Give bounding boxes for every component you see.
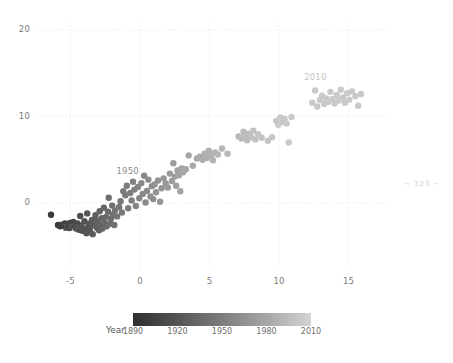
annotation-1950: 1950 xyxy=(116,166,138,176)
data-point xyxy=(286,139,292,145)
data-point xyxy=(157,199,163,205)
data-point xyxy=(133,203,139,209)
data-point xyxy=(142,199,148,205)
data-point xyxy=(283,120,289,126)
data-point xyxy=(128,197,134,203)
data-point xyxy=(77,213,83,219)
data-point xyxy=(124,183,130,189)
data-point xyxy=(130,179,136,185)
x-axis-tick-label: 0 xyxy=(124,276,156,286)
data-point xyxy=(190,163,196,169)
data-point xyxy=(358,91,364,97)
data-point xyxy=(338,86,344,92)
x-axis-tick-label: 10 xyxy=(263,276,295,286)
annotation-2010: 2010 xyxy=(304,72,326,82)
data-point xyxy=(84,210,90,216)
colorbar-tick-label: 1980 xyxy=(251,327,283,336)
colorbar-tick-label: 1890 xyxy=(117,327,149,336)
colorbar-tick-label: 1950 xyxy=(206,327,238,336)
data-point xyxy=(327,89,333,95)
data-point xyxy=(117,198,123,204)
data-point xyxy=(150,196,156,202)
data-point xyxy=(90,231,96,237)
page-number-mark: ~ 323 ~ xyxy=(404,180,441,188)
colorbar-tick-label: 1920 xyxy=(162,327,194,336)
data-point xyxy=(224,150,230,156)
data-point xyxy=(119,209,125,215)
data-point xyxy=(144,188,150,194)
data-point xyxy=(116,204,122,210)
y-axis-tick-label: 10 xyxy=(6,111,30,121)
colorbar-tick-label: 2010 xyxy=(295,327,327,336)
data-point xyxy=(165,184,171,190)
data-point xyxy=(155,177,161,183)
data-point xyxy=(215,151,221,157)
data-point xyxy=(173,183,179,189)
data-point xyxy=(170,160,176,166)
data-point xyxy=(258,134,264,140)
data-point xyxy=(314,103,320,109)
plot-canvas xyxy=(0,0,453,363)
data-point xyxy=(125,205,131,211)
scatter-figure: 20 10 0 -5 0 5 10 15 1890 1950 2010 Year… xyxy=(0,0,453,363)
data-points-layer xyxy=(48,86,364,237)
data-point xyxy=(219,145,225,151)
data-point xyxy=(269,134,275,140)
annotation-1890: 1890 xyxy=(62,223,84,233)
y-axis-tick-label: 20 xyxy=(6,24,30,34)
data-point xyxy=(346,96,352,102)
data-point xyxy=(153,189,159,195)
data-point xyxy=(138,180,144,186)
data-point xyxy=(145,176,151,182)
y-axis-tick-label: 0 xyxy=(6,197,30,207)
colorbar-gradient xyxy=(133,313,311,326)
x-axis-tick-label: -5 xyxy=(55,276,87,286)
data-point xyxy=(185,152,191,158)
data-point xyxy=(333,92,339,98)
data-point xyxy=(106,195,112,201)
data-point xyxy=(48,211,54,217)
data-point xyxy=(177,188,183,194)
data-point xyxy=(352,93,358,99)
data-point xyxy=(210,157,216,163)
x-axis-tick-label: 15 xyxy=(333,276,365,286)
data-point xyxy=(288,114,294,120)
data-point xyxy=(111,222,117,228)
x-axis-tick-label: 5 xyxy=(194,276,226,286)
data-point xyxy=(312,87,318,93)
data-point xyxy=(183,166,189,172)
data-point xyxy=(355,102,361,108)
